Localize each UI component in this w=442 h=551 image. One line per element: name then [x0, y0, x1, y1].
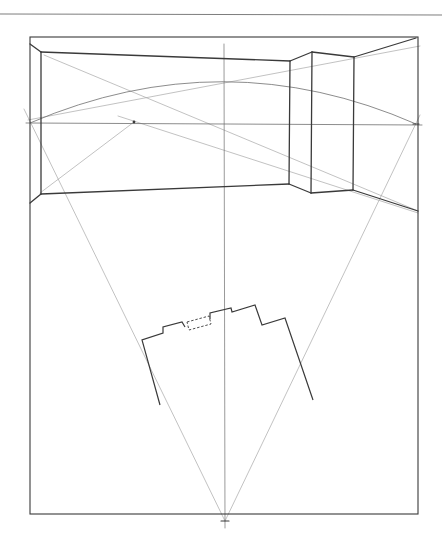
room-edge [312, 52, 354, 57]
construction-line [24, 109, 225, 521]
room-edge [289, 61, 290, 184]
plan-wall-left [142, 322, 185, 405]
room-edge [30, 194, 41, 203]
construction-line [225, 115, 420, 521]
room-edge [289, 184, 311, 193]
room-edge [353, 190, 418, 211]
room-edge [41, 184, 289, 194]
arc-path [30, 82, 416, 124]
center-vertical-stroke [224, 44, 225, 528]
page-rule-line [0, 14, 442, 15]
drawing-canvas [0, 0, 442, 551]
left-vanishing-point [133, 121, 136, 124]
plan-window-dashed [187, 316, 211, 330]
floor-plan-outline [142, 305, 313, 405]
room-edge [311, 190, 353, 193]
room-edge [290, 52, 312, 61]
perspective-sketch [0, 0, 442, 551]
construction-lines [24, 46, 420, 521]
room-edge [354, 38, 416, 57]
measuring-arc [30, 82, 416, 124]
room-edge [311, 52, 312, 193]
page-top-rule [0, 14, 442, 15]
room-edge [30, 44, 41, 52]
room-edge [41, 52, 290, 61]
center-of-vision-line [224, 44, 225, 528]
construction-line [44, 55, 418, 211]
construction-line [118, 116, 418, 213]
construction-line [40, 122, 134, 193]
plan-wall-right [210, 305, 313, 400]
room-edge [353, 57, 354, 190]
